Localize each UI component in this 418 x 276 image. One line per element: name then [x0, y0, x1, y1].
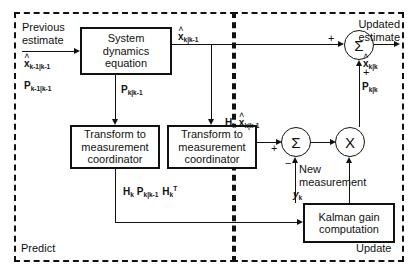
math-h-p-h-transpose: HkPk|k-1HkT	[123, 186, 177, 197]
transform-left-label: Transform to measurement coordinator	[74, 128, 156, 166]
sign-sum-innovation-bottom: −	[285, 158, 291, 168]
arrowhead-sum-output-in	[338, 41, 344, 47]
line-xpred-horizontal	[172, 44, 338, 45]
math-p-previous: Pk-1|k-1	[24, 80, 51, 91]
line-ppred-down	[115, 75, 116, 119]
math-x-predicted: ˄xk|k-1	[178, 31, 198, 42]
transform-left-block[interactable]: Transform to measurement coordinator	[70, 125, 160, 169]
x-hat-symbol: ˄x	[24, 58, 30, 69]
kalman-gain-label: Kalman gain computation	[307, 211, 391, 236]
line-innovation-to-multiply	[311, 142, 330, 143]
math-y-measurement: yk	[293, 189, 302, 200]
arrowhead-transform-right-in	[208, 119, 214, 125]
transform-right-block[interactable]: Transform to measurement coordinator	[167, 125, 257, 169]
math-p-updated: Pk|k	[362, 81, 378, 92]
predict-region-label: Predict	[21, 242, 55, 254]
multiply-glyph: X	[345, 134, 355, 151]
sigma-glyph: Σ	[291, 134, 300, 151]
multiply-node[interactable]: X	[335, 127, 365, 157]
x-hat-symbol: ˄x	[178, 31, 184, 42]
math-h-x-predicted: Hk˄xk|k-1	[225, 117, 259, 128]
line-updated-estimate-out	[374, 44, 395, 45]
transform-right-label: Transform to measurement coordinator	[171, 128, 253, 166]
arrowhead-multiply-in	[330, 139, 336, 145]
line-hph-down	[115, 169, 116, 223]
update-region-label: Update	[356, 242, 391, 254]
system-dynamics-block[interactable]: System dynamics equation	[80, 27, 172, 75]
sign-sum-output-left: +	[328, 33, 334, 43]
x-hat-symbol: ˄x	[363, 58, 369, 69]
previous-estimate-label: Previous estimate	[22, 21, 76, 46]
line-prev-to-sysdyn	[22, 51, 74, 52]
math-x-updated: ˄xk|k	[363, 58, 378, 69]
line-hph-right	[115, 222, 297, 223]
sum-innovation-node[interactable]: Σ	[281, 127, 311, 157]
math-x-previous: ˄xk-1|k-1	[24, 58, 50, 69]
kalman-filter-diagram: Predict Update System dynamics equation …	[0, 0, 418, 276]
kalman-gain-block[interactable]: Kalman gain computation	[303, 203, 395, 243]
arrowhead-kalman-gain-in	[297, 219, 303, 225]
sign-sum-innovation-top: +	[271, 143, 277, 153]
arrowhead-sum-output-bottom-in	[356, 60, 362, 66]
arrowhead-sum-innovation-bottom-in	[292, 157, 298, 163]
updated-estimate-label: Updated estimate	[348, 18, 400, 43]
arrowhead-sysdyn-in	[74, 48, 80, 54]
new-measurement-label: New measurement	[299, 163, 355, 188]
line-xpred-branch-down	[211, 44, 212, 119]
line-multiply-to-sum-output	[359, 66, 360, 127]
arrowhead-transform-left-in	[112, 119, 118, 125]
math-p-predicted: Pk|k-1	[121, 84, 143, 95]
system-dynamics-label: System dynamics equation	[84, 32, 168, 70]
